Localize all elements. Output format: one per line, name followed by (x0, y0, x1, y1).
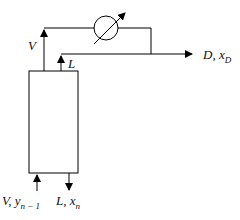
label-bottom-vapor: V, yn − 1 (2, 193, 40, 211)
label-reflux: L (68, 56, 75, 72)
bottom-liquid-sub: n (76, 201, 81, 211)
column-box (29, 71, 78, 173)
label-bottom-liquid: L, xn (56, 193, 80, 211)
bottom-vapor-sub: n − 1 (21, 201, 41, 211)
bottom-vapor-text: V, y (2, 193, 21, 208)
distillate-sub: D (225, 55, 232, 65)
bottom-liquid-text: L, x (56, 193, 76, 208)
label-vapor: V (28, 38, 36, 54)
distillate-text: D, x (203, 47, 225, 62)
label-distillate: D, xD (203, 47, 231, 65)
condenser-icon (94, 16, 118, 40)
diagram-canvas (0, 0, 240, 220)
